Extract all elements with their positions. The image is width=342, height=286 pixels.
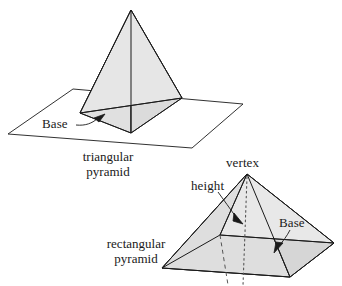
rectangular-pyramid-height-label: height <box>191 179 224 193</box>
rectangular-pyramid-caption-line1: rectangular <box>88 237 184 252</box>
rectangular-pyramid-group <box>162 174 334 285</box>
triangular-pyramid-caption-line2: pyramid <box>63 165 153 180</box>
rectangular-pyramid-caption-line2: pyramid <box>88 252 184 267</box>
triangular-base-leader-line <box>76 119 97 125</box>
triangular-pyramid-base-label: Base <box>42 117 68 131</box>
pyramids-figure: Base triangular pyramid vertex height Ba… <box>0 0 342 286</box>
triangular-pyramid-caption: triangular pyramid <box>63 150 153 179</box>
rectangular-pyramid-vertex-label: vertex <box>226 156 259 170</box>
triangular-pyramid-caption-line1: triangular <box>63 150 153 165</box>
rectangular-pyramid-caption: rectangular pyramid <box>88 237 184 266</box>
rectangular-pyramid-base-label: Base <box>279 216 305 230</box>
